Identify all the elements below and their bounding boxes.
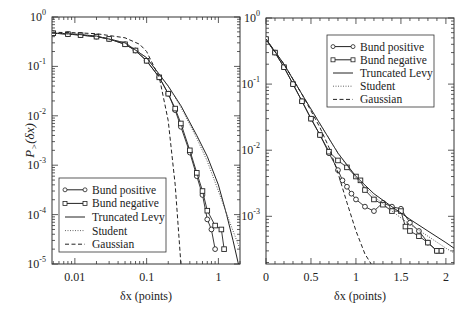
legend-label: Truncated Levy [360, 67, 433, 80]
legend-label: Bund negative [360, 54, 427, 67]
right-panel: 10-310-210-110000.511.52δx (points)Bund … [241, 9, 454, 303]
x-tick-label: 0.5 [303, 270, 318, 284]
legend-label: Bund negative [92, 197, 159, 210]
x-tick-label: 1 [215, 270, 221, 284]
y-tick-label: 10-1 [241, 75, 260, 91]
y-tick-label: 10-5 [27, 255, 46, 271]
legend-label: Truncated Levy [92, 211, 165, 224]
y-axis-label: P>(δx) [22, 123, 39, 159]
legend-label: Bund positive [92, 184, 156, 197]
y-tick-label: 10-2 [27, 107, 46, 123]
left-panel: 10-510-410-310-210-11000.010.11δx (point… [22, 8, 240, 303]
y-tick-label: 100 [244, 9, 260, 25]
x-tick-label: 0.1 [139, 270, 154, 284]
y-tick-label: 10-4 [27, 206, 46, 222]
legend-label: Bund positive [360, 41, 424, 54]
legend-label: Gaussian [92, 238, 134, 250]
y-tick-label: 10-3 [241, 207, 260, 223]
x-tick-label: 0 [263, 270, 269, 284]
x-axis-label: δx (points) [120, 289, 172, 303]
y-tick-label: 10-2 [241, 141, 260, 157]
x-axis-label: δx (points) [334, 289, 386, 303]
x-tick-label: 1 [353, 270, 359, 284]
y-tick-label: 100 [30, 8, 46, 24]
x-tick-label: 0.01 [64, 270, 85, 284]
legend: Bund positiveBund negativeTruncated Levy… [59, 178, 166, 252]
legend-label: Student [360, 80, 396, 92]
y-tick-label: 10-1 [27, 57, 46, 73]
x-tick-label: 1.5 [393, 270, 408, 284]
x-tick-label: 2 [443, 270, 449, 284]
figure: 10-510-410-310-210-11000.010.11δx (point… [0, 0, 468, 314]
legend-label: Gaussian [360, 93, 402, 105]
legend-label: Student [92, 225, 128, 237]
legend: Bund positiveBund negativeTruncated Levy… [327, 35, 434, 107]
